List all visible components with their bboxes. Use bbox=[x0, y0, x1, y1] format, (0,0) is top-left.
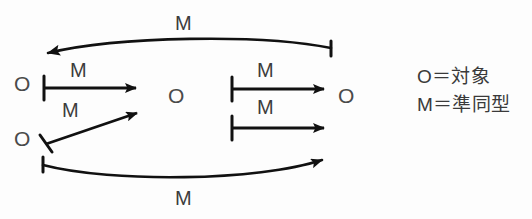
node-o-right: O bbox=[338, 85, 355, 106]
edge-label-m-right-lower: M bbox=[257, 97, 274, 117]
edge-label-m-left-upper: M bbox=[70, 60, 87, 80]
edge-label-m-bottom-curve: M bbox=[175, 188, 192, 208]
edge-left-upper bbox=[44, 76, 136, 100]
node-o-left-lower: O bbox=[14, 128, 31, 149]
left-lower-shaft bbox=[46, 113, 137, 144]
diagram-canvas: O O O O M M M M M M O＝対象 M＝準同型 bbox=[0, 0, 532, 219]
legend: O＝対象 M＝準同型 bbox=[417, 63, 510, 118]
node-o-left-upper: O bbox=[14, 73, 31, 94]
top-curve-path bbox=[48, 39, 331, 53]
edge-label-m-left-lower: M bbox=[62, 100, 79, 120]
edge-top-curve bbox=[48, 39, 331, 56]
bottom-curve-path bbox=[43, 160, 322, 177]
edge-bottom-curve bbox=[43, 157, 322, 177]
node-o-center: O bbox=[168, 85, 185, 106]
edge-label-m-top-curve: M bbox=[175, 13, 192, 33]
edge-left-lower bbox=[40, 113, 137, 152]
legend-object-line: O＝対象 bbox=[417, 63, 510, 91]
edge-right-upper bbox=[232, 77, 324, 101]
legend-morphism-line: M＝準同型 bbox=[417, 91, 510, 119]
edge-label-m-right-upper: M bbox=[257, 60, 274, 80]
edge-right-lower bbox=[232, 116, 324, 140]
